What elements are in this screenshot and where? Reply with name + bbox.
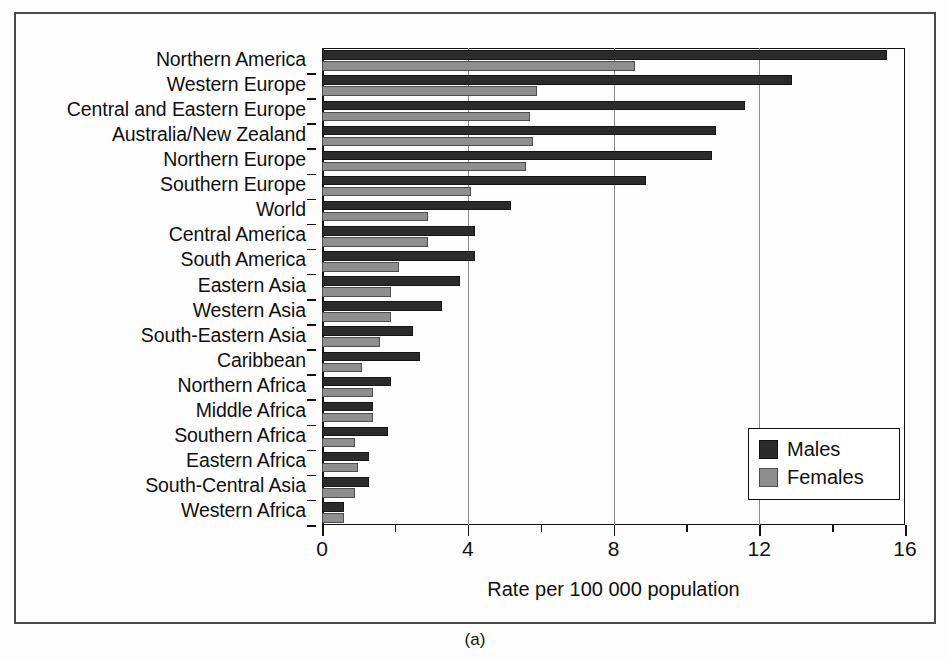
bar-group	[322, 199, 905, 224]
figure-page: Northern AmericaWestern EuropeCentral an…	[0, 0, 950, 658]
x-tick-major-16	[905, 525, 907, 536]
y-axis-label: Australia/New Zealand	[112, 123, 306, 146]
bar-males	[322, 251, 475, 261]
y-axis-tick	[307, 249, 316, 251]
y-axis-tick	[307, 475, 316, 477]
figure-frame-right-rule	[934, 12, 936, 624]
bar-females	[322, 488, 355, 498]
x-tick-major-4	[468, 525, 470, 536]
y-axis-category-labels: Northern AmericaWestern EuropeCentral an…	[0, 48, 316, 525]
bar-females	[322, 262, 399, 272]
y-axis-label: Western Asia	[193, 299, 306, 322]
bar-group	[322, 299, 905, 324]
x-tick-minor-6	[541, 525, 543, 532]
y-axis-tick	[307, 299, 316, 301]
bar-males	[322, 276, 460, 286]
y-axis-tick	[307, 148, 316, 150]
y-axis-tick	[307, 399, 316, 401]
bar-females	[322, 162, 526, 172]
y-axis-label: Central America	[169, 223, 306, 246]
y-axis-label: South-Eastern Asia	[141, 324, 306, 347]
bar-males	[322, 377, 391, 387]
y-axis-label: Northern Europe	[163, 148, 306, 171]
y-axis-tick	[307, 224, 316, 226]
bar-females	[322, 212, 428, 222]
y-axis-label: Southern Europe	[160, 173, 306, 196]
x-tick-label-12: 12	[748, 537, 771, 561]
legend-item-females: Females	[759, 463, 899, 491]
x-tick-label-4: 4	[462, 537, 474, 561]
bar-females	[322, 413, 373, 423]
figure-frame-bottom-rule	[14, 622, 936, 624]
bar-males	[322, 427, 388, 437]
bar-group	[322, 249, 905, 274]
y-axis-label: Northern Africa	[177, 374, 306, 397]
bar-females	[322, 312, 391, 322]
x-tick-label-0: 0	[316, 537, 328, 561]
x-tick-major-0	[322, 525, 324, 536]
y-axis-label: Caribbean	[217, 349, 306, 372]
bar-group	[322, 374, 905, 399]
y-axis-tick	[307, 174, 316, 176]
bar-group	[322, 48, 905, 73]
bar-males	[322, 326, 413, 336]
bar-males	[322, 402, 373, 412]
bar-males	[322, 502, 344, 512]
bar-females	[322, 438, 355, 448]
bar-females	[322, 363, 362, 373]
bar-males	[322, 126, 716, 136]
y-axis-label: Western Europe	[167, 73, 306, 96]
bar-females	[322, 137, 533, 147]
bar-females	[322, 513, 344, 523]
bar-females	[322, 61, 635, 71]
bar-group	[322, 274, 905, 299]
bar-males	[322, 50, 887, 60]
y-axis-label: Southern Africa	[174, 424, 306, 447]
bar-females	[322, 287, 391, 297]
bar-group	[322, 148, 905, 173]
chart-legend: Males Females	[748, 428, 900, 500]
y-axis-label: South America	[180, 248, 306, 271]
bar-females	[322, 337, 380, 347]
bar-group	[322, 500, 905, 525]
bar-females	[322, 388, 373, 398]
y-axis-tick	[307, 123, 316, 125]
y-axis-label: Eastern Asia	[198, 274, 306, 297]
y-axis-tick	[307, 525, 316, 527]
x-tick-minor-2	[395, 525, 397, 532]
legend-label-females: Females	[787, 466, 864, 489]
bar-males	[322, 452, 369, 462]
bar-group	[322, 98, 905, 123]
y-axis-tick	[307, 199, 316, 201]
x-tick-major-8	[614, 525, 616, 536]
x-tick-label-16: 16	[893, 537, 916, 561]
bar-males	[322, 151, 712, 161]
bar-group	[322, 324, 905, 349]
x-tick-minor-10	[686, 525, 688, 532]
x-tick-minor-14	[832, 525, 834, 532]
bar-males	[322, 301, 442, 311]
x-tick-major-12	[759, 525, 761, 536]
bar-males	[322, 477, 369, 487]
y-axis-tick	[307, 425, 316, 427]
y-axis-label: South-Central Asia	[145, 474, 306, 497]
y-axis-label: Eastern Africa	[186, 449, 306, 472]
bar-males	[322, 226, 475, 236]
y-axis-label: Central and Eastern Europe	[67, 98, 306, 121]
y-axis-tick	[307, 274, 316, 276]
y-axis-tick	[307, 324, 316, 326]
y-axis-tick	[307, 349, 316, 351]
bar-females	[322, 112, 530, 122]
bar-group	[322, 123, 905, 148]
figure-caption: (a)	[0, 630, 950, 650]
bar-group	[322, 174, 905, 199]
y-axis-label: Western Africa	[181, 499, 306, 522]
y-axis-label: Middle Africa	[196, 399, 306, 422]
y-axis-tick	[307, 450, 316, 452]
x-tick-label-8: 8	[608, 537, 620, 561]
bar-males	[322, 101, 745, 111]
bar-females	[322, 463, 358, 473]
legend-swatch-females-icon	[759, 468, 778, 487]
y-axis-tick	[307, 98, 316, 100]
y-axis-label: World	[256, 198, 306, 221]
